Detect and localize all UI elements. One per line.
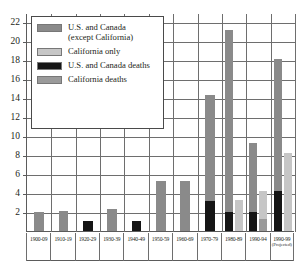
bar-chart: 246810121416182022 1900-091910-191920-29…: [0, 0, 300, 265]
segment-us-canada: [225, 30, 233, 231]
y-tick-label-10: 10: [0, 132, 20, 142]
legend-swatch-icon: [37, 76, 62, 84]
x-axis-label-text: 1980-89: [225, 236, 242, 242]
segment-us-canada-deaths: [274, 191, 282, 231]
column-separator-11: [295, 14, 296, 232]
legend-swatch-icon: [37, 48, 62, 56]
x-axis-label-1960-69: 1960-69: [172, 233, 196, 261]
bar-us-canada: [205, 95, 215, 231]
bar-us-canada: [83, 221, 93, 231]
y-tick-label-8: 8: [0, 151, 20, 161]
x-axis-label-1910-19: 1910-19: [50, 233, 74, 261]
y-tick-label-6: 6: [0, 170, 20, 180]
segment-us-canada-deaths: [249, 212, 257, 231]
segment-us-canada-deaths: [225, 212, 233, 231]
bar-us-canada: [249, 143, 257, 231]
bar-california: [259, 191, 267, 231]
legend-item: U.S. and Canada deaths: [37, 60, 159, 70]
segment-us-canada-deaths: [132, 221, 142, 231]
x-axis-label-text: 1950-59: [152, 236, 169, 242]
x-axis-label-text: 1930-39: [103, 236, 120, 242]
x-axis-label-1940-49: 1940-49: [123, 233, 147, 261]
segment-us-canada: [107, 209, 117, 231]
legend-swatch-icon: [37, 24, 62, 32]
bar-us-canada: [274, 59, 282, 232]
bar-group: [173, 13, 197, 231]
chart-legend: U.S. and Canada (except California)Calif…: [31, 16, 164, 129]
bar-us-canada: [34, 212, 44, 231]
x-axis-label-1900-09: 1900-09: [26, 233, 50, 261]
bar-us-canada: [225, 30, 233, 231]
segment-california: [284, 153, 292, 231]
x-axis-label-band: 1900-091910-191920-291930-391940-491950-…: [26, 233, 294, 261]
x-axis-sublabel-text: (Projected): [272, 242, 292, 248]
legend-label: U.S. and Canada deaths: [68, 60, 150, 70]
bar-group: [271, 13, 295, 231]
x-axis-label-1980-89: 1980-89: [221, 233, 245, 261]
segment-us-canada-deaths: [83, 221, 93, 231]
segment-california: [235, 200, 243, 231]
bar-group: [198, 13, 222, 231]
bar-us-canada: [107, 209, 117, 231]
segment-us-canada: [34, 212, 44, 231]
legend-swatch-icon: [37, 62, 62, 70]
y-tick-label-12: 12: [0, 113, 20, 123]
legend-label: California only: [68, 46, 120, 56]
x-axis-label-text: 1900-09: [30, 236, 47, 242]
y-tick-label-2: 2: [0, 208, 20, 218]
x-axis-label-1930-39: 1930-39: [99, 233, 123, 261]
bar-us-canada: [180, 181, 190, 231]
segment-us-canada-deaths: [205, 201, 215, 231]
bar-us-canada: [156, 181, 166, 231]
bar-us-canada: [132, 221, 142, 231]
legend-item: California deaths: [37, 74, 159, 84]
y-tick-label-14: 14: [0, 94, 20, 104]
x-axis-label-text: 1960-69: [176, 236, 193, 242]
x-axis-label-1990-94: 1990-94: [245, 233, 269, 261]
segment-us-canada: [156, 181, 166, 231]
segment-us-canada: [180, 181, 190, 231]
y-tick-label-22: 22: [0, 18, 20, 28]
y-tick-label-18: 18: [0, 56, 20, 66]
bar-us-canada: [59, 211, 69, 231]
x-axis-label-1920-29: 1920-29: [75, 233, 99, 261]
legend-item: U.S. and Canada (except California): [37, 22, 159, 42]
legend-item: California only: [37, 46, 159, 56]
x-axis-label-text: 1940-49: [128, 236, 145, 242]
bar-group: [222, 13, 246, 231]
y-tick-label-4: 4: [0, 189, 20, 199]
x-axis-label-1990-99: 1990-99(Projected): [270, 233, 294, 261]
segment-california-deaths: [259, 219, 267, 231]
legend-label: U.S. and Canada (except California): [68, 22, 133, 42]
legend-label: California deaths: [68, 74, 127, 84]
x-axis-label-1970-79: 1970-79: [197, 233, 221, 261]
bar-california: [284, 153, 292, 231]
x-axis-label-text: 1970-79: [201, 236, 218, 242]
x-axis-label-1950-59: 1950-59: [148, 233, 172, 261]
x-axis-label-text: 1910-19: [54, 236, 71, 242]
bar-group: [246, 13, 270, 231]
x-axis-label-text: 1920-29: [79, 236, 96, 242]
y-tick-label-16: 16: [0, 75, 20, 85]
segment-us-canada: [59, 211, 69, 231]
x-axis-label-text: 1990-94: [249, 236, 266, 242]
bar-california: [235, 200, 243, 231]
y-tick-label-20: 20: [0, 37, 20, 47]
